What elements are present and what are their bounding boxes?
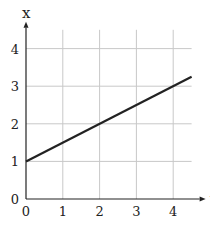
tick-labels: 0123401234 [11, 42, 178, 219]
series-line [26, 77, 192, 162]
y-tick-label: 1 [11, 154, 19, 169]
grid-lines [26, 30, 192, 199]
y-tick-label: 3 [11, 79, 19, 94]
y-tick-label: 4 [11, 42, 19, 57]
x-tick-label: 3 [132, 204, 140, 219]
data-series [26, 77, 192, 162]
x-tick-label: 0 [22, 204, 30, 219]
y-axis-label: x [22, 4, 31, 22]
line-chart: 0123401234 t x [0, 0, 210, 231]
x-tick-label: 4 [169, 204, 177, 219]
y-tick-label: 0 [11, 192, 19, 207]
y-tick-label: 2 [11, 117, 19, 132]
x-tick-label: 2 [95, 204, 103, 219]
y-axis-arrow-icon [24, 22, 29, 28]
x-axis-arrow-icon [200, 197, 206, 202]
x-tick-label: 1 [59, 204, 67, 219]
